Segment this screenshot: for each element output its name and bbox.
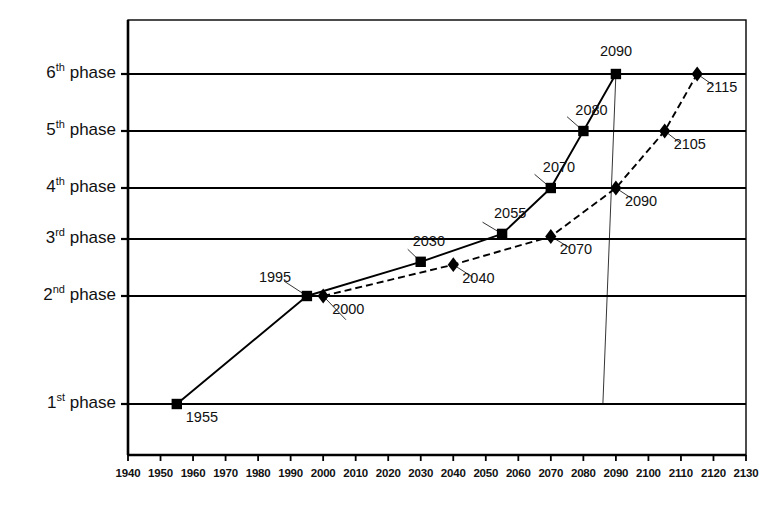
leader-line-5 xyxy=(483,222,503,234)
plot-area xyxy=(0,0,777,507)
point-label-1955-0: 1955 xyxy=(186,410,218,425)
leader-line-9 xyxy=(567,117,583,131)
point-label-2080-9: 2080 xyxy=(575,103,607,118)
point-label-2105-10: 2105 xyxy=(674,137,706,152)
leader-line-7 xyxy=(535,174,551,188)
marker-diamond-2070-2 xyxy=(545,229,556,244)
point-label-2030-3: 2030 xyxy=(413,234,445,249)
point-label-2070-7: 2070 xyxy=(543,160,575,175)
leader-line-3 xyxy=(408,249,421,262)
marker-diamond-2115-5 xyxy=(692,67,703,82)
point-label-2055-5: 2055 xyxy=(494,206,526,221)
point-label-1995-1: 1995 xyxy=(259,270,291,285)
marker-square-2055-3 xyxy=(497,229,507,239)
point-label-2090-11: 2090 xyxy=(600,44,632,59)
phase-timeline-chart: 1st phase2nd phase3rd phase4th phase5th … xyxy=(0,0,777,507)
point-label-2040-4: 2040 xyxy=(462,271,494,286)
point-label-2090-8: 2090 xyxy=(625,194,657,209)
point-label-2000-2: 2000 xyxy=(332,302,364,317)
x-axis-tick-label-2130: 2130 xyxy=(727,468,765,480)
point-label-2115-12: 2115 xyxy=(706,80,737,95)
point-label-2070-6: 2070 xyxy=(560,242,592,257)
marker-square-1995-1 xyxy=(302,291,312,301)
series-line-diamond-series xyxy=(323,74,697,296)
